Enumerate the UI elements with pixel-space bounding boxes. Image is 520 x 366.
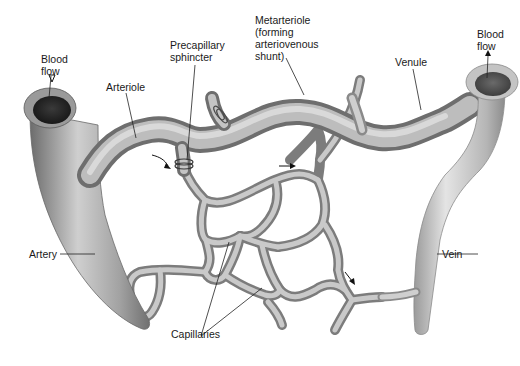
artery-opening — [24, 88, 76, 128]
label-blood-flow-in: flow — [41, 65, 60, 77]
label-capillaries: Capillaries — [171, 328, 220, 340]
flow-arrow-icon — [345, 272, 352, 281]
label-metarteriole: (forming — [255, 26, 294, 38]
label-venule: Venule — [395, 56, 427, 68]
label-arteriole: Arteriole — [106, 81, 145, 93]
label-metarteriole: shunt) — [255, 50, 284, 62]
label-artery: Artery — [29, 248, 58, 260]
label-blood-flow-out: flow — [477, 40, 496, 52]
arteriole-metarteriole-venule — [90, 98, 470, 175]
label-metarteriole: arteriovenous — [255, 38, 319, 50]
label-blood-flow-out: Blood — [477, 28, 504, 40]
label-precapillary-sphincter: Precapillary — [170, 39, 226, 51]
label-metarteriole: Metarteriole — [255, 14, 311, 26]
arrowhead-icon — [164, 163, 171, 169]
label-precapillary-sphincter: sphincter — [170, 51, 213, 63]
diagram-canvas: Blood flow Arteriole Precapillary sphinc… — [0, 0, 520, 366]
label-vein: Vein — [442, 248, 463, 260]
label-blood-flow-in: Blood — [41, 53, 68, 65]
microcirculation-diagram: Blood flow Arteriole Precapillary sphinc… — [0, 0, 520, 366]
